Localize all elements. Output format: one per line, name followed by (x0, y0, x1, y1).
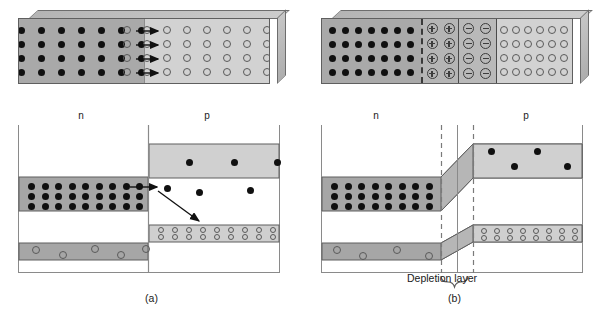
electron-dot (78, 69, 85, 76)
depletion-layer-label: Depletion layer (407, 272, 477, 284)
hole-circle (512, 26, 520, 34)
electron-dot (18, 27, 25, 34)
hole-circle (560, 26, 568, 34)
electron-dot (58, 55, 65, 62)
hole-circle (524, 26, 532, 34)
slab-p-region-b (497, 19, 572, 83)
negative-ion-icon (463, 53, 474, 64)
hole-circle (524, 68, 532, 76)
negative-ion-icon (463, 38, 474, 49)
slab-front-face (18, 18, 270, 84)
hole-circle (263, 68, 270, 76)
label-n-region-b: n (321, 110, 431, 121)
hole-circle (512, 40, 520, 48)
positive-ion-icon (444, 68, 455, 79)
electron-dot (78, 27, 85, 34)
hole-circle (203, 54, 211, 62)
hole-circle (203, 68, 211, 76)
electron-dot (18, 69, 25, 76)
hole-circle (223, 26, 231, 34)
electron-dot (394, 55, 401, 62)
hole-circle (143, 40, 151, 48)
positive-ion-icon (427, 38, 438, 49)
electron-dot (368, 41, 375, 48)
electron-dot (381, 69, 388, 76)
hole-circle (500, 40, 508, 48)
electron-dot (38, 55, 45, 62)
hole-circle (560, 68, 568, 76)
electron-dot (394, 69, 401, 76)
hole-circle (183, 26, 191, 34)
hole-circle (203, 26, 211, 34)
electron-dot (355, 27, 362, 34)
label-p-region-b: p (471, 110, 581, 121)
electron-dot (98, 41, 105, 48)
hole-circle (123, 26, 131, 34)
pn-junction-figure: n p (0, 0, 607, 319)
hole-circle (548, 68, 556, 76)
hole-circle (203, 40, 211, 48)
hole-circle (243, 54, 251, 62)
electron-dot (394, 41, 401, 48)
hole-circle (263, 26, 270, 34)
electron-dot (58, 69, 65, 76)
hole-circle (500, 26, 508, 34)
positive-ion-icon (427, 68, 438, 79)
electron-dot (342, 27, 349, 34)
panel-a-slab-block: n p (18, 10, 286, 98)
slab-p-region (144, 19, 269, 83)
electron-dot (355, 55, 362, 62)
electron-dot (58, 41, 65, 48)
electron-dot (394, 27, 401, 34)
positive-ion-icon (444, 53, 455, 64)
electron-dot (58, 27, 65, 34)
negative-ion-icon (480, 23, 491, 34)
electron-dot (329, 41, 336, 48)
hole-circle (223, 40, 231, 48)
positive-ion-icon (444, 23, 455, 34)
electron-dot (342, 41, 349, 48)
negative-ion-icon (480, 38, 491, 49)
hole-circle (263, 54, 270, 62)
electron-dot (368, 69, 375, 76)
electron-dot (38, 69, 45, 76)
hole-circle (143, 54, 151, 62)
caption-b: (b) (303, 292, 606, 304)
hole-circle (500, 68, 508, 76)
hole-circle (536, 40, 544, 48)
electron-dot (355, 69, 362, 76)
electron-dot (368, 27, 375, 34)
hole-circle (548, 54, 556, 62)
hole-circle (183, 54, 191, 62)
band-bands-b (321, 125, 583, 273)
hole-circle (536, 68, 544, 76)
hole-circle (183, 40, 191, 48)
electron-dot (407, 41, 414, 48)
hole-circle (512, 68, 520, 76)
hole-circle (560, 40, 568, 48)
hole-circle (163, 26, 171, 34)
electron-dot (78, 41, 85, 48)
electron-dot (381, 55, 388, 62)
slab-n-region-b (322, 19, 421, 83)
electron-dot (368, 55, 375, 62)
panel-b-band-diagram (321, 125, 583, 273)
electron-dot (18, 41, 25, 48)
slab-positive-ion-region (421, 19, 459, 83)
electron-dot (342, 69, 349, 76)
hole-circle (223, 68, 231, 76)
label-p-region-a: p (144, 110, 270, 121)
panel-b-slab-block: n p (321, 10, 589, 98)
electron-dot (98, 27, 105, 34)
electron-dot (98, 55, 105, 62)
electron-dot (38, 27, 45, 34)
slab-right-face (277, 9, 286, 84)
panel-a-band-diagram (18, 125, 280, 273)
electron-dot (407, 27, 414, 34)
hole-circle (163, 40, 171, 48)
negative-ion-icon (463, 68, 474, 79)
caption-a: (a) (0, 292, 303, 304)
hole-circle (123, 54, 131, 62)
hole-circle (163, 54, 171, 62)
hole-circle (500, 54, 508, 62)
